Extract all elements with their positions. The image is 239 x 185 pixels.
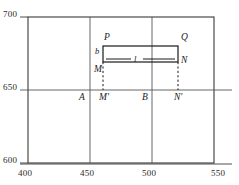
x-tick-label-450: 450 [80,168,94,178]
y-tick-label-700: 700 [3,9,17,19]
corner-label-m: M [94,64,102,74]
projection-label-mprime: M' [99,92,109,102]
dimension-label-l: l [134,54,136,64]
projection-label-nprime: N' [174,92,182,102]
x-tick-label-400: 400 [18,168,32,178]
dimension-label-b: b [95,46,99,56]
corner-label-q: Q [181,32,188,42]
axis-point-label-b: B [142,92,148,102]
figure-container: 700 650 600 400 450 500 550 P Q N M b l … [0,0,239,185]
x-tick-label-550: 550 [211,168,225,178]
y-tick-label-650: 650 [3,82,17,92]
diagram-canvas [0,0,239,185]
corner-label-p: P [104,32,110,42]
corner-label-n: N [181,55,187,65]
rectangle-pqnm [103,46,178,62]
x-tick-label-500: 500 [142,168,156,178]
axis-point-label-a: A [79,92,85,102]
y-tick-label-600: 600 [3,155,17,165]
